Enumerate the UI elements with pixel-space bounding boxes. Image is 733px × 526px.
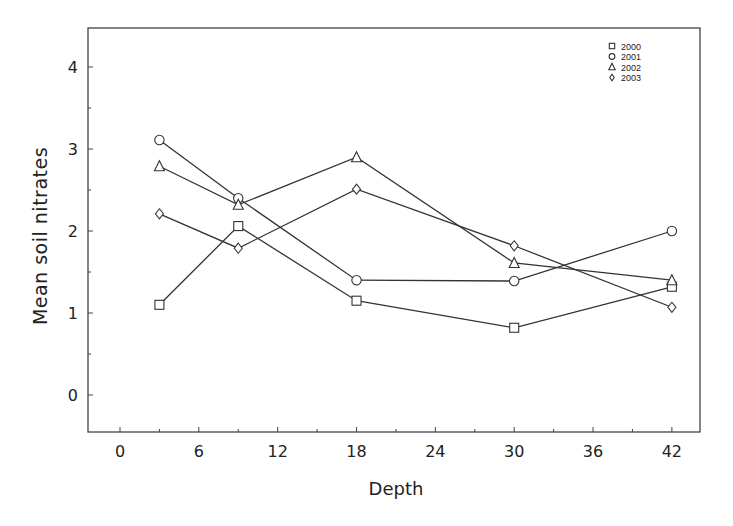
y-tick-label: 4 (68, 58, 78, 77)
diamond-marker-icon (668, 302, 676, 312)
x-tick-label: 0 (115, 442, 125, 461)
triangle-marker-icon (352, 152, 362, 162)
y-axis-label: Mean soil nitrates (29, 147, 51, 325)
circle-marker-icon (667, 226, 676, 235)
legend-label: 2002 (621, 63, 641, 73)
y-tick-label: 2 (68, 222, 78, 241)
series-2003 (155, 184, 675, 312)
diamond-marker-icon (155, 209, 163, 219)
data-series (154, 135, 676, 332)
chart-canvas: 0123406121824303642 2000200120022003 (0, 0, 733, 526)
legend-label: 2003 (621, 73, 641, 83)
x-tick-label: 42 (662, 442, 682, 461)
circle-marker-icon (155, 135, 164, 144)
circle-marker-icon (352, 276, 361, 285)
x-axis-label: Depth (369, 478, 424, 499)
triangle-marker-icon (509, 257, 519, 267)
legend-item-2000: 2000 (609, 42, 641, 52)
legend-label: 2001 (621, 52, 641, 62)
triangle-marker-icon (154, 161, 164, 171)
x-tick-label: 36 (583, 442, 603, 461)
triangle-marker-icon (609, 63, 615, 69)
diamond-marker-icon (353, 184, 361, 194)
x-tick-label: 24 (425, 442, 445, 461)
series-2000 (155, 222, 676, 333)
plot-frame (88, 28, 700, 432)
circle-marker-icon (609, 54, 615, 60)
x-tick-label: 12 (268, 442, 288, 461)
diamond-marker-icon (234, 243, 242, 253)
series-2002 (154, 152, 676, 285)
square-marker-icon (510, 323, 519, 332)
x-tick-label: 30 (504, 442, 524, 461)
legend-label: 2000 (621, 42, 641, 52)
series-line (159, 157, 671, 280)
legend-item-2002: 2002 (609, 63, 641, 73)
y-tick-label: 0 (68, 386, 78, 405)
x-tick-label: 6 (194, 442, 204, 461)
square-marker-icon (352, 296, 361, 305)
diamond-marker-icon (510, 241, 518, 251)
circle-marker-icon (510, 276, 519, 285)
square-marker-icon (234, 222, 243, 231)
legend-item-2003: 2003 (610, 73, 641, 83)
square-marker-icon (155, 300, 164, 309)
square-marker-icon (609, 43, 614, 48)
y-tick-label: 3 (68, 140, 78, 159)
legend: 2000200120022003 (609, 42, 641, 84)
diamond-marker-icon (610, 74, 614, 80)
x-tick-label: 18 (346, 442, 366, 461)
axes: 0123406121824303642 (68, 28, 700, 461)
y-tick-label: 1 (68, 304, 78, 323)
legend-item-2001: 2001 (609, 52, 641, 62)
